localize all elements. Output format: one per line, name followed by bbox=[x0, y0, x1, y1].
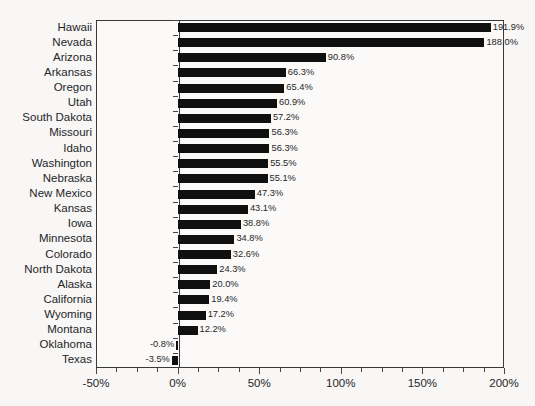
x-axis-minor-tick bbox=[300, 368, 301, 372]
x-axis-minor-tick bbox=[218, 368, 219, 372]
x-axis-minor-tick bbox=[382, 368, 383, 372]
x-axis-tick-label: 50% bbox=[219, 377, 299, 389]
x-axis-major-tick bbox=[178, 368, 179, 374]
x-axis-minor-tick bbox=[443, 368, 444, 372]
x-axis-tick-label: 100% bbox=[301, 377, 381, 389]
x-axis-minor-tick bbox=[239, 368, 240, 372]
x-axis-tick-label: 150% bbox=[382, 377, 462, 389]
x-axis-major-tick bbox=[504, 368, 505, 374]
x-axis-major-tick bbox=[96, 368, 97, 374]
x-axis-minor-tick bbox=[402, 368, 403, 372]
x-axis-tick-label: -50% bbox=[56, 377, 136, 389]
x-axis-minor-tick bbox=[361, 368, 362, 372]
x-axis-minor-tick bbox=[137, 368, 138, 372]
x-axis-minor-tick bbox=[484, 368, 485, 372]
x-axis-minor-tick bbox=[116, 368, 117, 372]
x-axis: -50%0%50%100%150%200% bbox=[0, 0, 535, 406]
x-axis-minor-tick bbox=[198, 368, 199, 372]
bar-chart: Hawaii191.9%Nevada188.0%Arizona90.8%Arka… bbox=[0, 0, 535, 406]
x-axis-tick-label: 0% bbox=[138, 377, 218, 389]
x-axis-minor-tick bbox=[280, 368, 281, 372]
x-axis-minor-tick bbox=[463, 368, 464, 372]
x-axis-tick-label: 200% bbox=[464, 377, 535, 389]
x-axis-major-tick bbox=[422, 368, 423, 374]
x-axis-minor-tick bbox=[320, 368, 321, 372]
x-axis-major-tick bbox=[259, 368, 260, 374]
x-axis-minor-tick bbox=[157, 368, 158, 372]
x-axis-major-tick bbox=[341, 368, 342, 374]
